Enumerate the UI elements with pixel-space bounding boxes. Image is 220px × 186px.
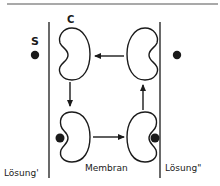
carrier-bottom-left-icon (60, 112, 90, 162)
carrier-label: C (67, 14, 74, 25)
bound-substrate-bottom-left (56, 134, 65, 143)
carrier-top-right-icon (127, 28, 158, 80)
substrate-label: S (31, 35, 39, 48)
left-solution-label: Lösung' (4, 168, 39, 178)
carrier-transport-diagram: S C Lösung' Membran Lösung" (0, 0, 220, 186)
membrane-label: Membran (85, 163, 128, 173)
substrate-dot-right (173, 51, 181, 59)
substrate-dot-left (31, 51, 39, 59)
bound-substrate-bottom-right (151, 134, 160, 143)
right-solution-label: Lösung" (165, 163, 201, 173)
carrier-top-left-icon (60, 28, 91, 80)
